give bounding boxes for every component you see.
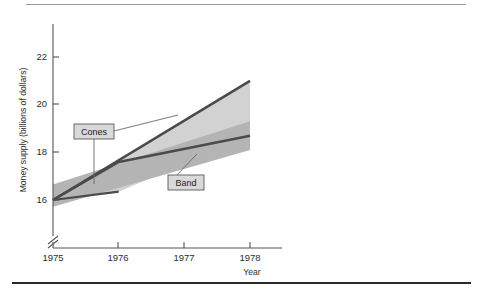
y-axis-title: Money supply (billions of dollars) xyxy=(18,68,28,193)
y-tick-label-22: 22 xyxy=(36,51,47,62)
cones-leader-line-right xyxy=(114,115,178,131)
x-axis-ticks xyxy=(53,242,250,248)
y-tick-label-20: 20 xyxy=(36,98,47,109)
x-axis-title: Year xyxy=(243,267,261,277)
band-callout-label: Band xyxy=(175,178,196,188)
x-tick-label-1977: 1977 xyxy=(173,252,194,263)
y-tick-label-18: 18 xyxy=(36,146,47,157)
money-supply-cone-band-chart: 22 20 18 16 1975 1976 1977 1978 Year Mon… xyxy=(0,0,483,292)
y-tick-label-16: 16 xyxy=(36,194,47,205)
figure-container: 22 20 18 16 1975 1976 1977 1978 Year Mon… xyxy=(0,0,483,292)
x-tick-label-1978: 1978 xyxy=(239,252,260,263)
x-tick-label-1975: 1975 xyxy=(42,252,63,263)
x-tick-label-1976: 1976 xyxy=(107,252,128,263)
cones-callout-label: Cones xyxy=(81,127,108,137)
y-axis-ticks xyxy=(53,57,59,200)
